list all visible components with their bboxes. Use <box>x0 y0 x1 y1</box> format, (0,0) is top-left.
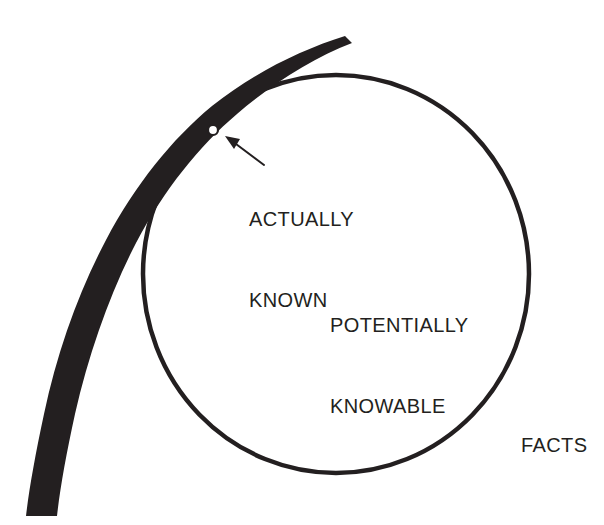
label-facts-line1: FACTS <box>521 432 587 459</box>
label-potentially-knowable-line2: KNOWABLE <box>330 393 469 420</box>
label-potentially-knowable-line1: POTENTIALLY <box>330 312 469 339</box>
label-potentially-knowable: POTENTIALLY KNOWABLE <box>330 258 469 474</box>
label-facts: FACTS <box>521 378 587 513</box>
diagram-canvas: ACTUALLY KNOWN POTENTIALLY KNOWABLE FACT… <box>0 0 604 525</box>
actually-known-circle <box>208 125 218 135</box>
label-actually-known-line1: ACTUALLY <box>249 206 354 233</box>
